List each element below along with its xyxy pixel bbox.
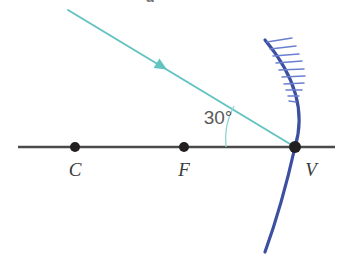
- diagram-canvas: C F V 30°: [0, 0, 350, 266]
- mirror-hatch-mark: [279, 69, 304, 70]
- point-dot-focal-point: [179, 142, 189, 152]
- point-label-center-of-curvature: C: [69, 159, 82, 180]
- incident-ray-arrowhead: [154, 58, 167, 69]
- mirror-hatch-mark: [284, 83, 304, 84]
- mirror-hatch-mark: [282, 76, 305, 77]
- point-dot-center-of-curvature: [70, 142, 80, 152]
- ray-diagram-figure: g C F V 30°: [0, 0, 350, 266]
- angle-value-label: 30°: [204, 107, 233, 128]
- point-label-focal-point: F: [177, 159, 190, 180]
- mirror-hatch-mark: [270, 46, 296, 49]
- point-label-vertex: V: [305, 159, 319, 180]
- incident-ray-line: [68, 10, 295, 147]
- point-dot-vertex: [289, 141, 301, 153]
- mirror-hatch-mark: [267, 38, 292, 42]
- mirror-hatch-mark: [289, 101, 296, 102]
